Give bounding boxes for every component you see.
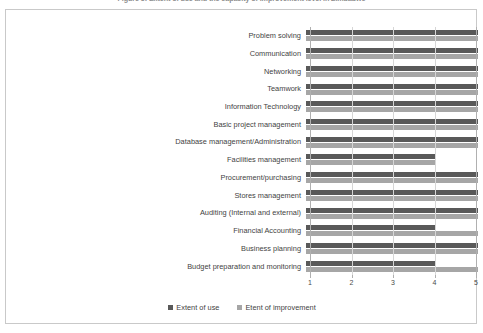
x-tick-label: 5 xyxy=(474,279,478,286)
bar-group xyxy=(306,151,478,169)
category-label: Basic project management xyxy=(6,116,306,134)
category-label: Information Technology xyxy=(6,98,306,116)
bar-extent-of-use xyxy=(306,172,478,177)
chart-legend: Extent of use Etent of improvement xyxy=(6,303,478,312)
chart-row: Business planning xyxy=(6,240,478,258)
legend-label: Extent of use xyxy=(176,303,219,312)
x-tick-label: 3 xyxy=(391,279,395,286)
bar-extent-of-use xyxy=(306,48,478,53)
bar-group xyxy=(306,45,478,63)
bar-extent-of-use xyxy=(306,84,478,89)
bar-group xyxy=(306,62,478,80)
category-label: Financial Accounting xyxy=(6,222,306,240)
chart-row: Facilities management xyxy=(6,151,478,169)
chart-row: Stores management xyxy=(6,186,478,204)
chart-row: Budget preparation and monitoring xyxy=(6,257,478,275)
bar-extent-of-improvement xyxy=(306,72,478,77)
bar-extent-of-improvement xyxy=(306,249,478,254)
chart-title-strip: Figure 5: Extent of use and the capacity… xyxy=(0,0,483,9)
bar-extent-of-use xyxy=(306,137,478,142)
category-label: Communication xyxy=(6,45,306,63)
chart-frame: Problem solvingCommunicationNetworkingTe… xyxy=(5,9,477,324)
x-axis: 12345 xyxy=(310,275,476,291)
bar-group xyxy=(306,204,478,222)
chart-row: Procurement/purchasing xyxy=(6,169,478,187)
legend-item-extent-of-use: Extent of use xyxy=(168,303,219,312)
legend-swatch-icon xyxy=(168,305,173,310)
legend-item-extent-of-improvement: Etent of improvement xyxy=(237,303,315,312)
category-label: Facilities management xyxy=(6,151,306,169)
bar-extent-of-improvement xyxy=(306,160,435,165)
bar-extent-of-use xyxy=(306,154,435,159)
bar-group xyxy=(306,116,478,134)
bar-extent-of-use xyxy=(306,243,478,248)
bar-extent-of-improvement xyxy=(306,107,478,112)
bar-extent-of-improvement xyxy=(306,267,478,272)
chart-row: Auditing (Internal and external) xyxy=(6,204,478,222)
chart-row: Networking xyxy=(6,62,478,80)
legend-swatch-icon xyxy=(237,305,242,310)
bar-extent-of-use xyxy=(306,30,478,35)
bar-extent-of-use xyxy=(306,119,478,124)
chart-row: Problem solving xyxy=(6,27,478,45)
bar-extent-of-improvement xyxy=(306,36,478,41)
bar-extent-of-use xyxy=(306,66,478,71)
x-tick-mark xyxy=(310,275,311,278)
x-tick-label: 4 xyxy=(433,279,437,286)
bar-extent-of-improvement xyxy=(306,54,478,59)
bar-extent-of-use xyxy=(306,101,478,106)
bar-group xyxy=(306,222,478,240)
bar-group xyxy=(306,240,478,258)
category-label: Budget preparation and monitoring xyxy=(6,257,306,275)
bar-extent-of-use xyxy=(306,190,478,195)
bar-extent-of-improvement xyxy=(306,143,478,148)
bar-extent-of-use xyxy=(306,261,435,266)
bar-group xyxy=(306,80,478,98)
category-label: Database management/Administration xyxy=(6,133,306,151)
bar-group xyxy=(306,133,478,151)
bar-group xyxy=(306,186,478,204)
chart-row: Database management/Administration xyxy=(6,133,478,151)
bar-extent-of-improvement xyxy=(306,196,478,201)
category-label: Business planning xyxy=(6,240,306,258)
category-label: Stores management xyxy=(6,186,306,204)
bar-extent-of-use xyxy=(306,225,435,230)
chart-row: Financial Accounting xyxy=(6,222,478,240)
bar-group xyxy=(306,169,478,187)
x-tick-mark xyxy=(393,275,394,278)
bar-extent-of-improvement xyxy=(306,90,478,95)
category-label: Problem solving xyxy=(6,27,306,45)
category-label: Teamwork xyxy=(6,80,306,98)
bar-group xyxy=(306,257,478,275)
chart-row: Communication xyxy=(6,45,478,63)
x-tick-mark xyxy=(476,275,477,278)
bar-group xyxy=(306,98,478,116)
bar-extent-of-use xyxy=(306,208,478,213)
bar-extent-of-improvement xyxy=(306,231,478,236)
bar-extent-of-improvement xyxy=(306,214,478,219)
category-label: Auditing (Internal and external) xyxy=(6,204,306,222)
chart-row: Basic project management xyxy=(6,116,478,134)
chart-row: Teamwork xyxy=(6,80,478,98)
plot-area: Problem solvingCommunicationNetworkingTe… xyxy=(6,27,478,277)
bar-group xyxy=(306,27,478,45)
x-tick-mark xyxy=(435,275,436,278)
x-tick-mark xyxy=(352,275,353,278)
page-title: Figure 5: Extent of use and the capacity… xyxy=(0,0,483,3)
x-tick-label: 2 xyxy=(350,279,354,286)
x-tick-label: 1 xyxy=(308,279,312,286)
chart-row: Information Technology xyxy=(6,98,478,116)
bar-rows: Problem solvingCommunicationNetworkingTe… xyxy=(6,27,478,275)
category-label: Procurement/purchasing xyxy=(6,169,306,187)
category-label: Networking xyxy=(6,62,306,80)
bar-extent-of-improvement xyxy=(306,178,478,183)
legend-label: Etent of improvement xyxy=(245,303,315,312)
bar-extent-of-improvement xyxy=(306,125,478,130)
